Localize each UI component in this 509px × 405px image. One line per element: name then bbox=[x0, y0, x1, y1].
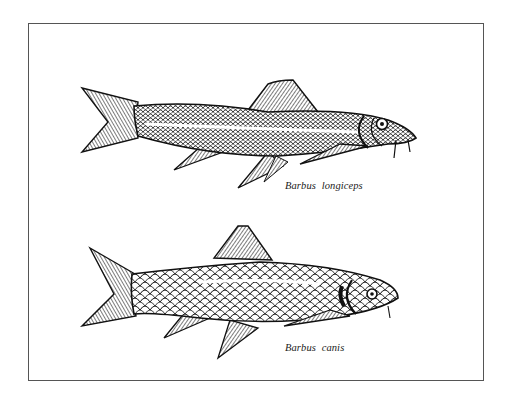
caudal-fin bbox=[82, 88, 138, 152]
caption-barbus-canis: Barbus canis bbox=[285, 342, 344, 353]
fish-illustration-barbus-longiceps bbox=[78, 40, 428, 190]
caption-barbus-longiceps: Barbus longiceps bbox=[285, 180, 363, 191]
fish-illustration-barbus-canis bbox=[80, 222, 410, 372]
